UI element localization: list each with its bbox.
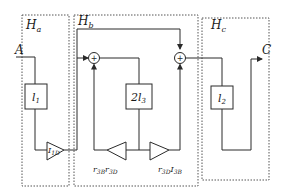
wire-g2-to-s1: [94, 65, 107, 151]
gain-g2: [107, 142, 126, 160]
wire-input: [16, 57, 35, 84]
group-label-hc: Hc: [210, 18, 226, 34]
gain-g2-label: r3Br3D: [93, 165, 118, 175]
group-label-hb: Hb: [77, 14, 94, 30]
wire-l1-to-g1: [35, 109, 47, 150]
output-label-c: C: [262, 43, 271, 57]
block-diagram: Ha Hb Hc A l1 I1D + 2l3 r3Br3D r3DI3B + …: [0, 0, 282, 190]
wire-s2-to-l2: [186, 58, 223, 86]
summer-s2-symbol: +: [177, 54, 184, 63]
wire-s1-to-l3: [100, 58, 140, 84]
wire-g1-to-bus: [64, 29, 180, 150]
wire-g3-to-s2: [169, 65, 180, 151]
gain-g3: [150, 142, 169, 160]
group-label-ha: Ha: [25, 18, 41, 34]
input-label-a: A: [14, 43, 24, 57]
gain-g3-label: r3DI3B: [158, 165, 182, 175]
summer-s1-symbol: +: [91, 54, 98, 63]
